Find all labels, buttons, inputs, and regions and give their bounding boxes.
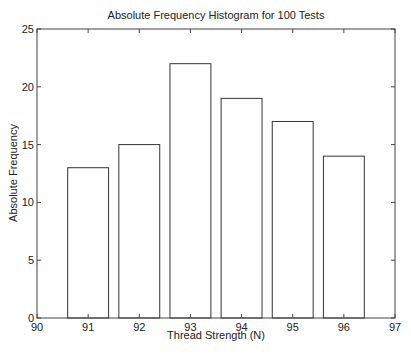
x-tick-label: 97 (389, 321, 401, 333)
y-tick-label: 15 (22, 139, 34, 151)
x-axis-label: Thread Strength (N) (167, 329, 265, 341)
histogram-bar-96 (323, 156, 364, 318)
histogram-bar-92 (119, 145, 160, 318)
x-tick-label: 91 (82, 321, 94, 333)
y-tick-label: 25 (22, 23, 34, 35)
histogram-chart: Absolute Frequency Histogram for 100 Tes… (0, 0, 411, 355)
x-tick-label: 95 (287, 321, 299, 333)
y-tick-label: 5 (28, 254, 34, 266)
y-tick-label: 10 (22, 196, 34, 208)
y-tick-label: 20 (22, 81, 34, 93)
chart-title: Absolute Frequency Histogram for 100 Tes… (108, 9, 325, 21)
histogram-bar-94 (221, 98, 262, 318)
x-tick-label: 92 (133, 321, 145, 333)
y-axis-label: Absolute Frequency (7, 124, 19, 222)
y-tick-label: 0 (28, 312, 34, 324)
histogram-bar-91 (68, 168, 109, 318)
histogram-bar-93 (170, 64, 211, 318)
bars-group (68, 64, 365, 318)
x-tick-label: 96 (338, 321, 350, 333)
histogram-bar-95 (272, 121, 313, 318)
